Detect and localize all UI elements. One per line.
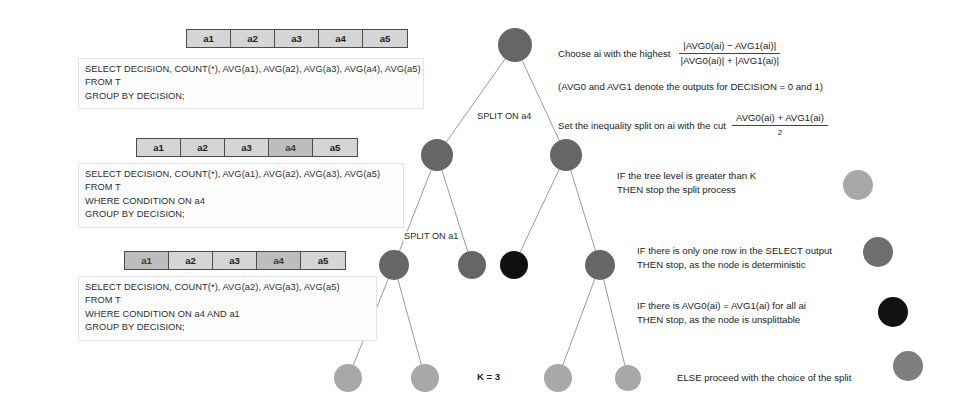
tree-edge-root-n-l [446, 58, 506, 143]
attr-cell-a5: a5 [301, 252, 345, 269]
rule-else: ELSE proceed with the choice of the spli… [677, 371, 851, 385]
figure-canvas: a1a2a3a4a5 SELECT DECISION, COUNT(*), AV… [0, 0, 969, 409]
tree-node-n-l[interactable] [421, 139, 453, 171]
sql-line: SELECT DECISION, COUNT(*), AVG(a1), AVG(… [85, 63, 417, 76]
tree-node-n-b4[interactable] [615, 365, 641, 391]
attr-cell-a1: a1 [187, 30, 231, 47]
formula-cut-denominator: 2 [774, 126, 786, 139]
sql-line: SELECT DECISION, COUNT(*), AVG(a1), AVG(… [85, 168, 397, 181]
formula-note: (AVG0 and AVG1 denote the outputs for DE… [558, 80, 823, 94]
tree-node-root[interactable] [498, 28, 532, 62]
tree-edge-n-rr-n-b3 [563, 278, 596, 366]
rule-level: IF the tree level is greater than KTHEN … [617, 169, 756, 197]
sql-line: WHERE CONDITION ON a4 [85, 195, 397, 208]
formula-choose-fraction: |AVG0(ai) − AVG1(ai)| |AVG0(ai)| + |AVG1… [677, 40, 783, 67]
rule-line: ELSE proceed with the choice of the spli… [677, 371, 851, 385]
sql-block-2: SELECT DECISION, COUNT(*), AVG(a1), AVG(… [78, 163, 404, 228]
formula-cut-lead: Set the inequality split on ai with the … [558, 120, 726, 131]
attr-cell-a4: a4 [269, 139, 313, 156]
rule-line: THEN stop, as the node is unsplittable [637, 313, 806, 327]
attr-cell-a1: a1 [137, 139, 181, 156]
tree-edge-n-rr-n-b4 [603, 279, 625, 367]
attr-cell-a4: a4 [319, 30, 363, 47]
rule-deterministic: IF there is only one row in the SELECT o… [637, 244, 832, 272]
sql-line: GROUP BY DECISION; [85, 90, 417, 103]
rule-else-dot [893, 351, 923, 381]
attr-cell-a3: a3 [275, 30, 319, 47]
tree-edge-label-1: SPLIT ON a1 [402, 231, 460, 241]
attr-table-1: a1a2a3a4a5 [186, 29, 408, 48]
tree-node-n-lr[interactable] [458, 251, 486, 279]
formula-cut: Set the inequality split on ai with the … [558, 112, 828, 139]
tree-node-n-ll[interactable] [379, 250, 409, 280]
tree-node-n-b2[interactable] [411, 364, 439, 392]
formula-choose-ai: Choose ai with the highest |AVG0(ai) − A… [558, 40, 783, 67]
k-value-label: K = 3 [477, 371, 500, 382]
formula-cut-fraction: AVG0(ai) + AVG1(ai) 2 [732, 112, 828, 139]
sql-line: GROUP BY DECISION; [85, 321, 370, 334]
tree-node-n-b3[interactable] [544, 364, 572, 392]
tree-node-n-rr[interactable] [585, 250, 615, 280]
rule-unsplittable: IF there is AVG0(ai) = AVG1(ai) for all … [637, 299, 806, 327]
attr-cell-a2: a2 [169, 252, 213, 269]
formula-choose-lead: Choose ai with the highest [558, 48, 671, 59]
sql-line: FROM T [85, 181, 397, 194]
sql-line: WHERE CONDITION ON a4 AND a1 [85, 308, 370, 321]
attr-cell-a3: a3 [213, 252, 257, 269]
attr-table-2: a1a2a3a4a5 [136, 138, 358, 157]
tree-edge-n-r-n-rl [520, 169, 560, 254]
formula-choose-numerator: |AVG0(ai) − AVG1(ai)| [679, 40, 780, 54]
tree-edge-label-0: SPLIT ON a4 [475, 111, 533, 121]
tree-node-n-b1[interactable] [334, 364, 362, 392]
rule-level-dot [843, 170, 873, 200]
rule-line: THEN stop, as the node is deterministic [637, 258, 832, 272]
sql-block-1: SELECT DECISION, COUNT(*), AVG(a1), AVG(… [78, 58, 424, 109]
rule-line: IF the tree level is greater than K [617, 169, 756, 183]
formula-choose-denominator: |AVG0(ai)| + |AVG1(ai)| [677, 54, 783, 67]
attr-cell-a2: a2 [181, 139, 225, 156]
formula-cut-numerator: AVG0(ai) + AVG1(ai) [732, 112, 828, 126]
tree-edge-n-r-n-rr [570, 169, 595, 251]
attr-cell-a4: a4 [257, 252, 301, 269]
attr-cell-a5: a5 [313, 139, 357, 156]
rule-line: THEN stop the split process [617, 183, 756, 197]
rule-unsplittable-dot [878, 297, 908, 327]
sql-block-3: SELECT DECISION, COUNT(*), AVG(a2), AVG(… [78, 276, 377, 341]
tree-node-n-r[interactable] [550, 139, 582, 171]
formula-note-text: (AVG0 and AVG1 denote the outputs for DE… [558, 80, 823, 94]
attr-cell-a5: a5 [363, 30, 407, 47]
attr-table-3: a1a2a3a4a5 [124, 251, 346, 270]
attr-cell-a1: a1 [125, 252, 169, 269]
rule-line: IF there is AVG0(ai) = AVG1(ai) for all … [637, 299, 806, 313]
rule-line: IF there is only one row in the SELECT o… [637, 244, 832, 258]
tree-edge-root-n-r [522, 60, 560, 142]
rule-deterministic-dot [863, 237, 893, 267]
attr-cell-a2: a2 [231, 30, 275, 47]
tree-node-n-rl[interactable] [500, 251, 528, 279]
sql-line: SELECT DECISION, COUNT(*), AVG(a2), AVG(… [85, 281, 370, 294]
attr-cell-a3: a3 [225, 139, 269, 156]
tree-edge-n-ll-n-b2 [398, 279, 422, 366]
sql-line: GROUP BY DECISION; [85, 208, 397, 221]
sql-line: FROM T [85, 294, 370, 307]
sql-line: FROM T [85, 76, 417, 89]
